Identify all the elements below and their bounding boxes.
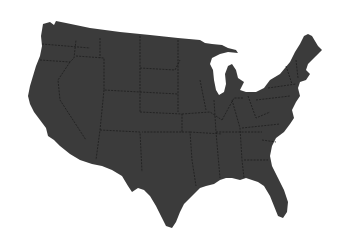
- us-map: [0, 0, 347, 230]
